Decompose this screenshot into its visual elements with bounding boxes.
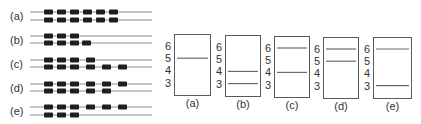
strand-block [44, 10, 53, 15]
strand-block [82, 41, 91, 46]
strand-block [102, 89, 111, 94]
strand-block [70, 89, 79, 94]
strand-block [44, 58, 53, 63]
level-label: 6 [265, 42, 271, 54]
strand-block [44, 113, 53, 118]
strand [30, 89, 152, 94]
strand-block [44, 89, 53, 94]
level-label: 3 [265, 79, 271, 91]
strand [30, 18, 152, 23]
gel-box [275, 37, 310, 98]
strand [30, 10, 152, 15]
strand-block [118, 65, 127, 70]
strand-block [57, 58, 66, 63]
level-label: 4 [265, 66, 271, 78]
gel-box [374, 38, 412, 99]
strand-block [57, 34, 66, 39]
strand-block [96, 10, 105, 15]
level-label: 4 [216, 65, 222, 77]
strand-block [86, 89, 95, 94]
strand-block [70, 34, 79, 39]
row-label: (c) [10, 58, 23, 70]
strand [30, 34, 152, 39]
lane-label: (d) [334, 100, 347, 112]
strand-block [70, 113, 79, 118]
strand-block [57, 113, 66, 118]
gel-lane: 6543(e) [364, 38, 412, 113]
figure: (a)(b)(c)(d)(e) 6543(a)6543(b)6543(c)654… [0, 0, 421, 124]
strand [30, 41, 152, 46]
strand-block [109, 10, 118, 15]
strand-block [102, 82, 111, 87]
strand-block [57, 89, 66, 94]
lane-label: (a) [186, 97, 199, 109]
level-label: 6 [165, 40, 171, 52]
strand-block [86, 65, 95, 70]
strand-block [109, 18, 118, 23]
strand-block [57, 41, 66, 46]
strand-block [57, 82, 66, 87]
strand-block [83, 18, 92, 23]
lane-label: (e) [386, 100, 399, 112]
level-label: 6 [364, 43, 370, 55]
level-label: 5 [265, 54, 271, 66]
strand-row: (d) [10, 82, 152, 95]
strand-diagram-panel: (a)(b)(c)(d)(e) [10, 10, 152, 118]
level-label: 5 [165, 52, 171, 64]
level-label: 4 [165, 64, 171, 76]
strand [30, 82, 152, 87]
strand-block [96, 18, 105, 23]
strand-block [57, 18, 66, 23]
strand [30, 65, 152, 70]
strand-block [57, 105, 66, 110]
level-label: 4 [364, 67, 370, 79]
level-label: 3 [314, 80, 320, 92]
gel-lane: 6543(d) [314, 38, 359, 113]
strand-block [44, 82, 53, 87]
row-label: (d) [10, 82, 23, 94]
gel-lane: 6543(a) [165, 35, 211, 110]
strand-block [86, 58, 95, 63]
level-label: 5 [364, 55, 370, 67]
strand-block [44, 41, 53, 46]
level-label: 3 [364, 80, 370, 92]
strand-block [118, 82, 127, 87]
gel-box [175, 35, 211, 96]
gel-box [226, 36, 261, 97]
band-gel-panel: 6543(a)6543(b)6543(c)6543(d)6543(e) [165, 35, 412, 113]
strand-block [44, 34, 53, 39]
row-label: (b) [10, 34, 23, 46]
strand-block [70, 10, 79, 15]
level-label: 5 [314, 55, 320, 67]
lane-label: (c) [286, 99, 299, 111]
level-label: 4 [314, 67, 320, 79]
strand-block [118, 105, 127, 110]
strand-row: (c) [10, 58, 152, 71]
gel-box [324, 38, 359, 99]
level-label: 3 [165, 77, 171, 89]
strand-block [86, 82, 95, 87]
strand-block [70, 82, 79, 87]
strand-row: (e) [10, 105, 152, 118]
strand [30, 105, 152, 110]
strand-block [44, 65, 53, 70]
strand-block [70, 58, 79, 63]
strand-block [70, 105, 79, 110]
level-label: 6 [216, 41, 222, 53]
gel-lane: 6543(b) [216, 36, 261, 111]
strand [30, 113, 152, 118]
strand-row: (a) [10, 10, 152, 23]
row-label: (a) [10, 10, 23, 22]
strand [30, 58, 152, 63]
strand-block [44, 105, 53, 110]
lane-label: (b) [236, 98, 249, 110]
strand-block [102, 105, 111, 110]
level-label: 6 [314, 43, 320, 55]
strand-block [70, 18, 79, 23]
strand-block [57, 10, 66, 15]
row-label: (e) [10, 105, 23, 117]
strand-block [70, 41, 79, 46]
level-label: 5 [216, 53, 222, 65]
strand-block [57, 65, 66, 70]
strand-block [86, 105, 95, 110]
